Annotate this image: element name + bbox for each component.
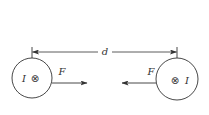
left-force-label: F (58, 66, 67, 77)
left-wire: I ⊗ F (12, 58, 87, 98)
right-wire: ⊗ I F (122, 58, 198, 100)
distance-label: d (102, 46, 108, 57)
left-current-label: I (21, 73, 27, 84)
right-current-label: I (184, 75, 190, 86)
right-force-label: F (147, 66, 156, 77)
parallel-wires-diagram: d I ⊗ F ⊗ I F (0, 0, 209, 115)
current-into-page-icon: ⊗ (171, 75, 179, 86)
distance-dimension: d (32, 46, 177, 58)
current-into-page-icon: ⊗ (31, 73, 39, 84)
